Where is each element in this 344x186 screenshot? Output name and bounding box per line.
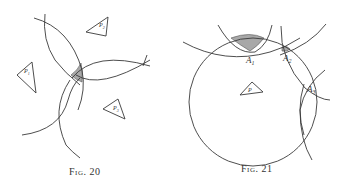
figure-20: P2 P1 P3 [17,14,150,158]
triangle-p1: P1 [17,62,36,93]
triangle-p2: P2 [86,17,108,36]
triangle-p: P [240,82,263,95]
figures-canvas: P2 P1 P3 P A1 [0,0,344,186]
arc-a3b [300,84,304,135]
main-circle [189,38,317,166]
caption-fig-21: Fig. 21 [241,163,272,174]
label-a1: A1 [245,55,255,66]
label-a2: A2 [282,53,292,64]
shaded-region-a1 [231,35,264,52]
figure-21: P A1 A2 A3 [183,24,330,166]
arc-2 [72,60,150,78]
arc-3b [59,80,80,158]
label-a3: A3 [306,84,316,95]
svg-text:P: P [247,87,252,93]
caption-fig-20: Fig. 20 [69,166,100,177]
triangle-p3: P3 [103,99,125,119]
arc-a3 [300,70,325,160]
